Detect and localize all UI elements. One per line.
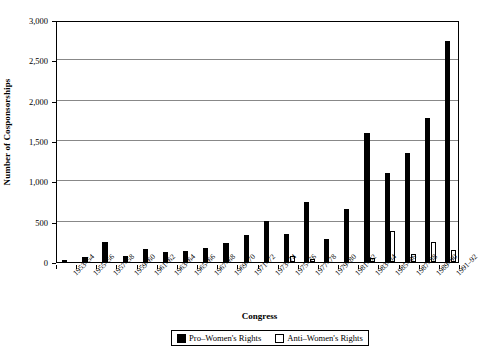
x-tick-mark <box>177 265 178 269</box>
legend-swatch-pro-icon <box>177 334 186 343</box>
x-tick-mark <box>298 265 299 269</box>
x-tick-mark <box>76 265 77 269</box>
bar-pro-1987-88 <box>405 153 410 262</box>
legend-item-anti: Anti–Women's Rights <box>275 333 363 343</box>
x-tick-mark <box>56 265 57 269</box>
x-tick-mark <box>157 265 158 269</box>
bar-pro-1983-84 <box>364 133 369 262</box>
bar-pro-1977-78 <box>304 202 309 262</box>
x-tick-mark <box>338 265 339 269</box>
y-tick-label: 3,000 <box>2 16 48 26</box>
x-tick-mark <box>358 265 359 269</box>
x-tick-label-wrap: 1959–60 <box>132 271 138 277</box>
y-tick-label: 500 <box>2 218 48 228</box>
legend-label-anti: Anti–Women's Rights <box>287 333 363 343</box>
y-tick-label: 2,000 <box>2 97 48 107</box>
x-tick-mark <box>137 265 138 269</box>
x-tick-mark <box>399 265 400 269</box>
plot-area <box>56 21 459 263</box>
x-tick-mark <box>439 265 440 269</box>
x-tick-label-wrap: 1977–78 <box>313 271 319 277</box>
x-axis-ticks: 1953–541955–561957–581959–601961–621963–… <box>0 265 475 315</box>
x-tick-label-wrap: 1953–54 <box>71 271 77 277</box>
x-tick-mark <box>197 265 198 269</box>
x-tick-label-wrap: 1991–92 <box>454 271 460 277</box>
legend-label-pro: Pro–Women's Rights <box>189 333 261 343</box>
bar-pro-1989-90 <box>425 118 430 262</box>
x-tick-label-wrap: 1983–84 <box>373 271 379 277</box>
x-tick-label-wrap: 1981–82 <box>353 271 359 277</box>
x-tick-label-wrap: 1989–90 <box>434 271 440 277</box>
x-tick-mark <box>217 265 218 269</box>
x-tick-label-wrap: 1973–74 <box>273 271 279 277</box>
x-tick-label-wrap: 1961–62 <box>152 271 158 277</box>
bar-pro-1985-86 <box>385 173 390 262</box>
x-tick-label-wrap: 1971–72 <box>252 271 258 277</box>
x-tick-label-wrap: 1955–56 <box>91 271 97 277</box>
x-tick-mark <box>278 265 279 269</box>
bar-pro-1953-54 <box>62 260 67 262</box>
x-tick-mark <box>378 265 379 269</box>
x-axis-title-text: Congress <box>242 311 277 321</box>
y-tick-label: 1,500 <box>2 137 48 147</box>
x-tick-mark <box>318 265 319 269</box>
x-tick-mark <box>419 265 420 269</box>
x-tick-mark <box>96 265 97 269</box>
x-tick-mark <box>116 265 117 269</box>
y-tick-label: 2,500 <box>2 56 48 66</box>
x-tick-label-wrap: 1985–86 <box>393 271 399 277</box>
y-tick-label: 1,000 <box>2 177 48 187</box>
bar-series-container <box>57 22 458 262</box>
x-tick-mark <box>237 265 238 269</box>
x-tick-label-wrap: 1965–66 <box>192 271 198 277</box>
bar-pro-1991-92 <box>445 41 450 262</box>
x-tick-label-wrap: 1987–88 <box>414 271 420 277</box>
x-axis-title: Congress <box>0 311 475 321</box>
legend-swatch-anti-icon <box>275 334 284 343</box>
x-tick-label-wrap: 1975–76 <box>293 271 299 277</box>
chart-legend: Pro–Women's Rights Anti–Women's Rights <box>171 330 369 346</box>
x-tick-mark <box>258 265 259 269</box>
legend-item-pro: Pro–Women's Rights <box>177 333 261 343</box>
x-tick-label-wrap: 1957–58 <box>111 271 117 277</box>
x-tick-label-wrap: 1963–64 <box>172 271 178 277</box>
x-tick-mark <box>459 265 460 269</box>
x-tick-label-wrap: 1979–80 <box>333 271 339 277</box>
x-tick-label-wrap: 1969–70 <box>232 271 238 277</box>
y-tick-mark <box>52 263 56 264</box>
x-tick-label-wrap: 1967–68 <box>212 271 218 277</box>
